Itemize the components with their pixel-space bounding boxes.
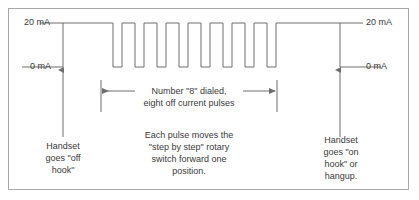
center-note-line-3: switch forward one [119, 153, 259, 165]
center-note-line-4: position. [119, 165, 259, 177]
center-note-line-2: "step by step" rotary [119, 141, 259, 153]
dial-span-line-2: eight off current pulses [133, 97, 245, 109]
left-event-line-1: Handset [28, 140, 98, 152]
right-event-line-4: hangup. [306, 170, 376, 182]
right-event-line-1: Handset [306, 134, 376, 146]
dial-span-annotation: Number "8" dialed, eight off current pul… [133, 85, 245, 109]
center-note-line-1: Each pulse moves the [119, 129, 259, 141]
axis-left-low-label: 0 mA [30, 61, 51, 73]
dial-span-line-1: Number "8" dialed, [133, 85, 245, 97]
axis-left-high-label: 20 mA [24, 17, 50, 29]
current-waveform [63, 23, 340, 67]
right-event-line-3: hook" or [306, 158, 376, 170]
left-event-line-2: goes "off [28, 152, 98, 164]
left-event-line-3: hook" [28, 164, 98, 176]
left-event-label: Handset goes "off hook" [28, 140, 98, 176]
right-event-line-2: goes "on [306, 146, 376, 158]
center-note: Each pulse moves the "step by step" rota… [119, 129, 259, 177]
axis-right-low-label: 0 mA [366, 61, 387, 73]
axis-right-high-label: 20 mA [366, 17, 392, 29]
right-event-label: Handset goes "on hook" or hangup. [306, 134, 376, 182]
figure-container: 20 mA 0 mA 20 mA 0 mA Number "8" dialed,… [0, 0, 419, 200]
